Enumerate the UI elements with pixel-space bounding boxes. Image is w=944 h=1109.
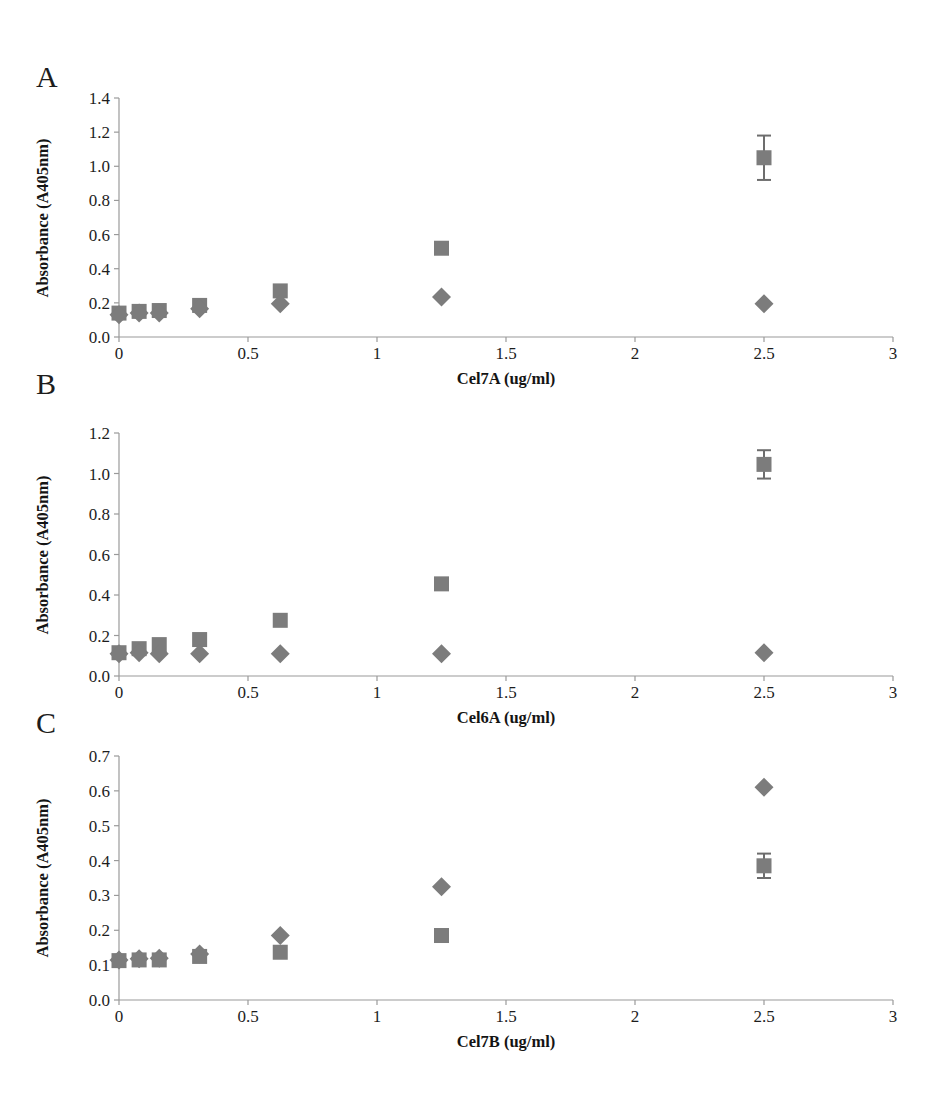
y-tick-label: 0.8 [89,191,110,210]
x-tick-label: 3 [889,1007,898,1026]
panel-a: A 0.00.20.40.60.81.01.21.400.511.522.53C… [0,0,944,388]
x-tick-label: 2 [631,1007,640,1026]
y-tick-label: 1.2 [89,123,110,142]
data-point-square [757,457,772,472]
x-tick-label: 1 [373,1007,382,1026]
y-axis-title: Absorbance (A405nm) [33,798,52,957]
data-point-diamond [271,644,290,663]
panel-b: B 0.00.20.40.60.81.01.200.511.522.53Cel6… [0,345,944,727]
x-tick-label: 0.5 [237,1007,258,1026]
y-tick-label: 0.6 [89,226,110,245]
y-tick-label: 0.4 [89,586,111,605]
y-axis-title: Absorbance (A405nm) [33,138,52,297]
data-point-diamond [755,643,774,662]
data-point-diamond [432,644,451,663]
data-point-diamond [190,644,209,663]
y-tick-label: 0.6 [89,546,110,565]
y-tick-label: 0.0 [89,667,110,686]
y-tick-label: 0.2 [89,294,110,313]
y-tick-label: 0.5 [89,817,110,836]
y-tick-label: 0.2 [89,921,110,940]
y-tick-label: 0.6 [89,782,110,801]
data-point-square [132,952,147,967]
data-point-square [434,928,449,943]
data-point-square [434,576,449,591]
data-point-square [152,952,167,967]
y-tick-label: 0.4 [89,852,111,871]
y-tick-label: 0.7 [89,747,111,766]
plot-area-b: 0.00.20.40.60.81.01.200.511.522.53Cel6A … [0,345,944,727]
series-square-series [112,450,772,660]
y-tick-label: 0.4 [89,260,111,279]
data-point-square [434,241,449,256]
x-tick-label: 2.5 [753,1007,774,1026]
data-point-square [757,858,772,873]
series-diamond-series [110,643,774,663]
data-point-diamond [755,294,774,313]
plot-area-a: 0.00.20.40.60.81.01.21.400.511.522.53Cel… [0,0,944,388]
series-diamond-series [110,287,774,324]
data-point-diamond [432,877,451,896]
y-tick-label: 0.2 [89,627,110,646]
x-axis-title: Cel7B (ug/ml) [457,1032,556,1051]
y-axis-title: Absorbance (A405nm) [33,475,52,634]
figure-container: A 0.00.20.40.60.81.01.21.400.511.522.53C… [0,0,944,1109]
y-tick-label: 1.4 [89,89,111,108]
y-tick-label: 1.0 [89,157,110,176]
data-point-square [757,150,772,165]
plot-area-c: 0.00.10.20.30.40.50.60.700.511.522.53Cel… [0,688,944,1109]
data-point-square [112,953,127,968]
y-tick-label: 0.1 [89,956,110,975]
x-tick-label: 0 [115,1007,124,1026]
data-point-diamond [432,287,451,306]
series-square-series [112,854,772,969]
data-point-diamond [755,778,774,797]
data-point-square [273,945,288,960]
y-tick-label: 1.2 [89,424,110,443]
y-tick-label: 0.8 [89,505,110,524]
data-point-diamond [271,926,290,945]
y-tick-label: 1.0 [89,465,110,484]
y-tick-label: 0.3 [89,886,110,905]
data-point-square [192,949,207,964]
data-point-square [273,613,288,628]
x-tick-label: 1.5 [495,1007,516,1026]
y-tick-label: 0.0 [89,991,110,1010]
panel-c: C 0.00.10.20.30.40.50.60.700.511.522.53C… [0,688,944,1109]
